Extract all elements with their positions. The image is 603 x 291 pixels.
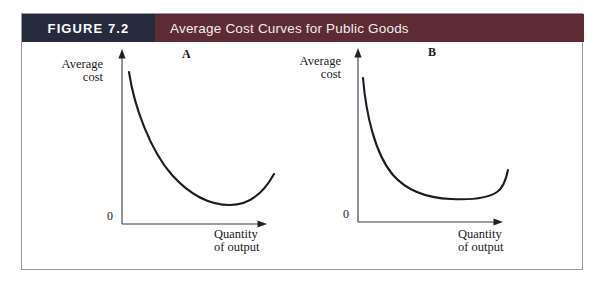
figure-frame: FIGURE 7.2 Average Cost Curves for Publi… — [21, 13, 583, 270]
figure-number-block: FIGURE 7.2 — [22, 14, 155, 42]
figure-title: Average Cost Curves for Public Goods — [170, 21, 409, 36]
chart-a-x-axis-label-line2: of output — [214, 241, 259, 254]
chart-a-y-axis-label-line2: cost — [40, 71, 103, 84]
chart-b-panel-label: B — [428, 45, 436, 60]
chart-b-y-axis-label-line2: cost — [278, 68, 341, 81]
chart-b-y-axis-label: Average cost — [278, 55, 341, 81]
chart-a-average-cost-curve — [129, 72, 274, 205]
figure-title-block: Average Cost Curves for Public Goods — [155, 14, 584, 42]
chart-b-average-cost-curve — [363, 78, 508, 199]
chart-b-x-axis-arrowhead — [494, 218, 504, 225]
chart-a-x-axis-label: Quantity of output — [214, 228, 259, 254]
chart-a-y-axis-label: Average cost — [40, 58, 103, 84]
chart-a-y-axis-arrowhead — [118, 49, 125, 59]
chart-b-x-axis-label-line2: of output — [458, 241, 503, 254]
chart-panel-a: A Average cost Quantity of output 0 — [22, 42, 303, 270]
plots-area: A Average cost Quantity of output 0 — [22, 42, 584, 270]
chart-b-x-axis-label: Quantity of output — [458, 228, 503, 254]
chart-a-origin-label: 0 — [107, 209, 113, 224]
chart-b-y-axis-arrowhead — [354, 48, 361, 58]
figure-header: FIGURE 7.2 Average Cost Curves for Publi… — [22, 14, 584, 42]
chart-panel-b: B Average cost Quantity of output 0 — [265, 42, 546, 270]
figure-number-label: FIGURE 7.2 — [48, 21, 130, 36]
chart-a-panel-label: A — [182, 47, 191, 62]
chart-b-origin-label: 0 — [343, 207, 349, 222]
